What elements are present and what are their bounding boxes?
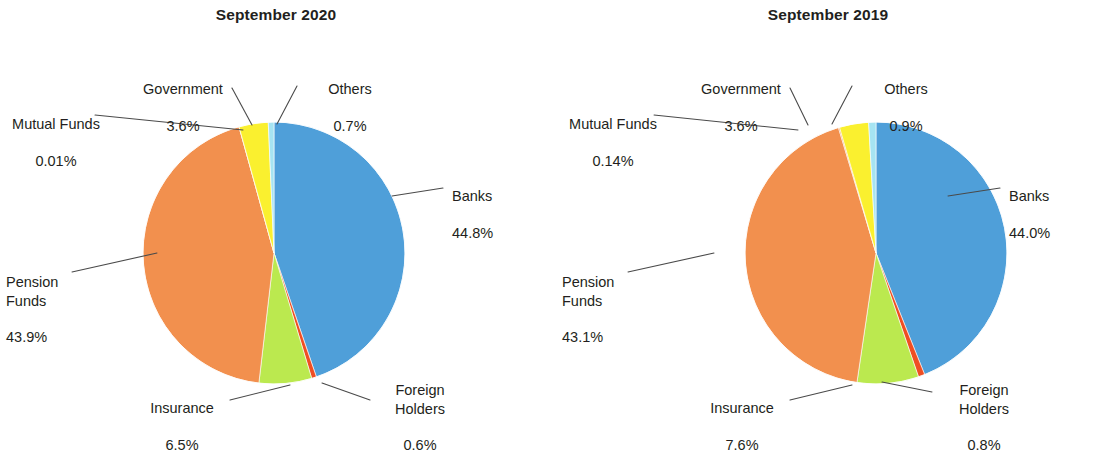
pie-slices-left	[143, 122, 405, 384]
callout-pension-funds-left-pct: 43.9%	[6, 328, 86, 346]
callout-foreign-holders-left-name: Foreign Holders	[377, 381, 463, 418]
leader-line-foreign-holders	[322, 383, 370, 400]
callout-mutual-funds-right: Mutual Funds 0.14%	[556, 97, 670, 188]
callout-banks-right: Banks 44.0%	[1009, 169, 1103, 260]
chart-panel-september-2020: September 2020 Government	[0, 0, 552, 436]
callout-mutual-funds-left-name: Mutual Funds	[0, 115, 112, 133]
callout-foreign-holders-right: Foreign Holders 0.8%	[939, 363, 1029, 454]
callout-government-right: Government 3.6%	[676, 62, 806, 153]
callout-banks-left: Banks 44.8%	[452, 169, 546, 260]
callout-others-left: Others 0.7%	[306, 62, 394, 153]
callout-pension-funds-left: Pension Funds 43.9%	[6, 255, 86, 365]
callout-others-left-pct: 0.7%	[306, 117, 394, 135]
callout-insurance-right-name: Insurance	[694, 399, 790, 417]
callout-mutual-funds-right-name: Mutual Funds	[556, 115, 670, 133]
callout-foreign-holders-left: Foreign Holders 0.6%	[377, 363, 463, 454]
callout-others-left-name: Others	[306, 80, 394, 98]
callout-mutual-funds-left: Mutual Funds 0.01%	[0, 97, 112, 188]
leader-line-others	[277, 86, 297, 124]
callout-government-left: Government 3.6%	[118, 62, 248, 153]
pie-slices-right	[745, 122, 1007, 384]
callout-insurance-left-name: Insurance	[134, 399, 230, 417]
callout-insurance-right-pct: 7.6%	[694, 436, 790, 454]
callout-banks-right-pct: 44.0%	[1009, 224, 1103, 242]
callout-pension-funds-right-pct: 43.1%	[562, 328, 642, 346]
callout-insurance-left-pct: 6.5%	[134, 436, 230, 454]
callout-government-left-pct: 3.6%	[118, 117, 248, 135]
callout-foreign-holders-right-name: Foreign Holders	[939, 381, 1029, 418]
callout-banks-left-pct: 44.8%	[452, 224, 546, 242]
callout-insurance-left: Insurance 6.5%	[134, 381, 230, 454]
leader-line-others	[832, 86, 852, 124]
callout-government-right-pct: 3.6%	[676, 117, 806, 135]
callout-others-right-name: Others	[862, 80, 950, 98]
callout-foreign-holders-left-pct: 0.6%	[377, 436, 463, 454]
callout-pension-funds-right-name: Pension Funds	[562, 273, 642, 310]
callout-insurance-right: Insurance 7.6%	[694, 381, 790, 454]
callout-government-left-name: Government	[118, 80, 248, 98]
chart-panel-september-2019: September 2019 Government 3.6% Others 0.…	[552, 0, 1104, 436]
callout-banks-right-name: Banks	[1009, 187, 1103, 205]
callout-others-right: Others 0.9%	[862, 62, 950, 153]
callout-pension-funds-left-name: Pension Funds	[6, 273, 86, 310]
leader-line-insurance	[790, 385, 852, 400]
callout-banks-left-name: Banks	[452, 187, 546, 205]
callout-others-right-pct: 0.9%	[862, 117, 950, 135]
callout-pension-funds-right: Pension Funds 43.1%	[562, 255, 642, 365]
callout-government-right-name: Government	[676, 80, 806, 98]
callout-mutual-funds-right-pct: 0.14%	[556, 152, 670, 170]
leader-line-insurance	[230, 385, 290, 400]
callout-mutual-funds-left-pct: 0.01%	[0, 152, 112, 170]
leader-line-banks	[392, 188, 443, 196]
leader-line-foreign-holders	[882, 382, 932, 392]
callout-foreign-holders-right-pct: 0.8%	[939, 436, 1029, 454]
